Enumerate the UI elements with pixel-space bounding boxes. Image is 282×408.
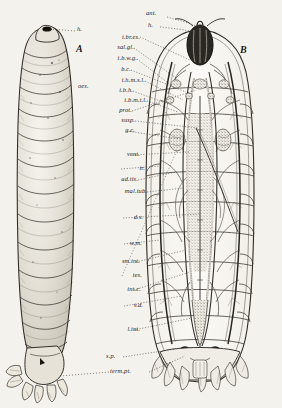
label-d-v: d.v. <box>99 214 143 220</box>
label-term-pt: term.pt. <box>110 368 131 374</box>
label-h-larva: h. <box>77 26 82 32</box>
label-vent: vent. <box>96 151 140 157</box>
label-w-m: w.m. <box>98 240 142 246</box>
label-mal-tub: mal.tub. <box>93 188 147 194</box>
label-l-int: l.int. <box>96 326 140 332</box>
label-susp: susp. <box>91 117 135 123</box>
label-int-c: int.c. <box>97 286 141 292</box>
label-i-h-m-s-l: i.h.m.s.l. <box>101 77 145 83</box>
label-i-br-es: i.br.es. <box>96 34 140 40</box>
label-oes: oes. <box>78 83 89 89</box>
label-i-b-w-g: i.b.w.g. <box>93 55 137 61</box>
label-i-b-m-t-l: i.b.m.t.l. <box>103 97 147 103</box>
label-b-c: b.c. <box>87 66 131 72</box>
label-tr: tr. <box>101 165 145 171</box>
label-i-b-h: i.b.h. <box>89 87 133 93</box>
label-h-top: h. <box>148 22 153 28</box>
figure-a-label: A <box>76 43 83 54</box>
label-g-c: g.c. <box>91 127 135 133</box>
label-prot: prot. <box>88 107 132 113</box>
label-s-p: s.p. <box>106 353 115 359</box>
label-sal-gl: sal.gl. <box>90 44 134 50</box>
figure-b-dissection <box>146 19 254 392</box>
label-v-d: v.d. <box>99 302 143 308</box>
label-tes: tes. <box>98 272 142 278</box>
anatomical-plate <box>0 0 282 408</box>
label-ant: ant. <box>146 10 156 16</box>
label-sm-int: sm.int. <box>96 258 140 264</box>
figure-b-label: B <box>240 44 247 55</box>
label-ad-tis: ad.tis. <box>94 176 138 182</box>
